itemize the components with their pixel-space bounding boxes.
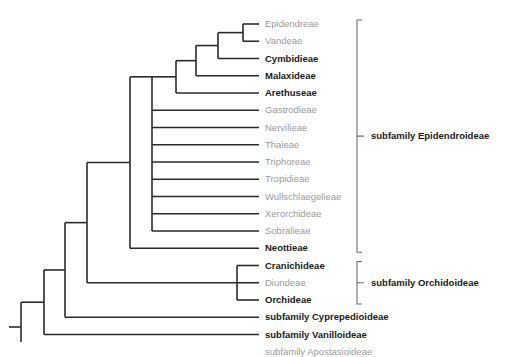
tip-label-orchideae: Orchideae (265, 295, 311, 305)
tip-label-gastrodieae: Gastrodieae (265, 105, 317, 115)
tip-label-triphoreae: Triphoreae (265, 157, 311, 167)
tip-label-vandeae: Vandeae (265, 36, 302, 46)
bracket-0 (357, 20, 364, 252)
tip-label-neottieae: Neottieae (265, 243, 308, 253)
tip-label-diundeae: Diundeae (265, 278, 306, 288)
tip-label-epidendreae: Epidendreae (265, 19, 319, 29)
tip-label-subfamily-cyprepedioideae: subfamily Cyprepedioideae (265, 312, 389, 322)
branch-lines (9, 24, 259, 342)
tip-label-tropidieae: Tropidieae (265, 174, 310, 184)
tip-label-arethuseae: Arethuseae (265, 88, 317, 98)
tip-label-sobralieae: Sobralieae (265, 226, 310, 236)
tip-label-cymbidieae: Cymbidieae (265, 54, 318, 64)
subfamily-brackets (357, 20, 364, 304)
tip-label-thaieae: Thaieae (265, 140, 299, 150)
tip-label-subfamily-apostasioideae: subfamily Apostasioideae (265, 347, 372, 357)
tip-label-subfamily-vanilloideae: subfamily Vanilloideae (265, 330, 367, 340)
bracket-1 (357, 262, 364, 305)
tip-label-wullschlaegelieae: Wullschlaegelieae (265, 192, 341, 202)
tip-label-xerorchideae: Xerorchideae (265, 209, 322, 219)
tip-label-malaxideae: Malaxideae (265, 71, 316, 81)
tip-label-cranichideae: Cranichideae (265, 261, 325, 271)
subfamily-label-subfamily-orchidoideae: subfamily Orchidoideae (371, 278, 479, 288)
subfamily-label-subfamily-epidendroideae: subfamily Epidendroideae (371, 131, 489, 141)
tip-label-nervilieae: Nervilieae (265, 123, 307, 133)
